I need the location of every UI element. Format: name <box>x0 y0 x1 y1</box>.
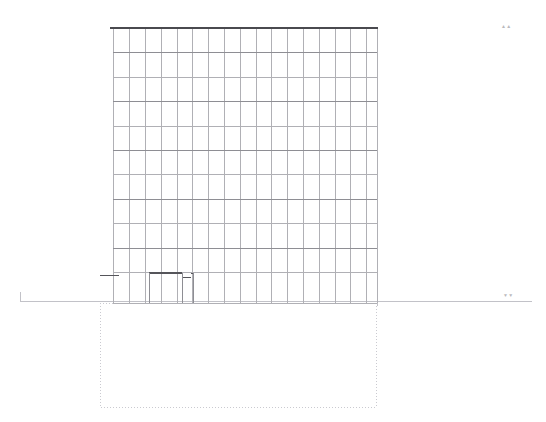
facade-grid-group <box>113 28 377 303</box>
grade-line-group <box>20 292 532 306</box>
north-arrow-icon: ▲▲ <box>501 24 511 29</box>
below-grade-outline-group <box>100 303 376 407</box>
grade-level-marker-icon: ▼▼ <box>503 293 513 298</box>
below-grade-outline <box>100 303 376 407</box>
entrance-canopy-group <box>100 273 193 303</box>
elevation-drawing-canvas <box>0 0 546 422</box>
drawing-sheet: ▲▲ ▼▼ <box>0 0 546 422</box>
